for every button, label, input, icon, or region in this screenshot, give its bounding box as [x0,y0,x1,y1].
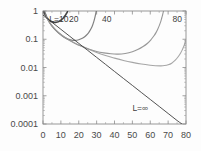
figure-container: 01020304050607080 10.10.010.0010.0001 L=… [0,0,201,151]
x-tick-label: 30 [92,130,102,140]
curve-label-l80: 80 [173,14,183,24]
x-axis-tick-labels: 01020304050607080 [40,130,191,140]
x-tick-label: 80 [181,130,191,140]
y-tick-label: 1 [33,6,38,16]
x-tick-label: 10 [56,130,66,140]
y-tick-label: 0.1 [25,34,38,44]
x-tick-label: 60 [145,130,155,140]
curve-label-linfinity: L=∞ [132,103,148,113]
y-tick-label: 0.0001 [10,119,38,129]
curve-label-l40: 40 [102,14,112,24]
log-linear-line-chart: 01020304050607080 10.10.010.0010.0001 L=… [0,0,201,151]
x-tick-label: 70 [163,130,173,140]
x-tick-label: 50 [127,130,137,140]
curve-label-l20: 20 [69,14,79,24]
y-tick-label: 0.01 [20,63,38,73]
y-tick-label: 0.001 [15,91,38,101]
x-tick-label: 0 [40,130,45,140]
curve-label-l10: L=10 [49,14,68,24]
x-tick-label: 20 [74,130,84,140]
x-tick-label: 40 [109,130,119,140]
